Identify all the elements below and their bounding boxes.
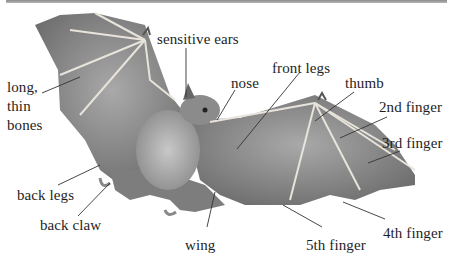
label-long: long, — [7, 79, 38, 95]
label-2nd-finger: 2nd finger — [379, 99, 442, 115]
label-5th-finger: 5th finger — [306, 237, 366, 253]
ear-icon — [183, 83, 195, 100]
label-sensitive-ears: sensitive ears — [157, 31, 239, 47]
label-4th-finger: 4th finger — [383, 225, 443, 241]
label-3rd-finger: 3rd finger — [382, 135, 443, 151]
label-front-legs: front legs — [272, 60, 330, 76]
label-bones: bones — [7, 117, 43, 133]
label-thin: thin — [7, 98, 31, 114]
label-wing: wing — [185, 237, 215, 253]
label-thumb: thumb — [345, 75, 384, 91]
label-nose: nose — [231, 75, 259, 91]
label-back-legs: back legs — [17, 187, 74, 203]
label-back-claw: back claw — [40, 217, 101, 233]
